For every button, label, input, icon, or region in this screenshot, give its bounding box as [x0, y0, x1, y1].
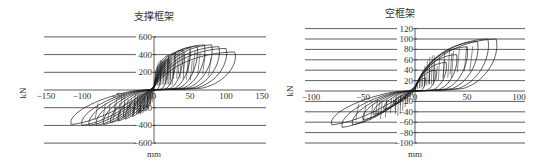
x-tick-label: 0 — [152, 91, 157, 101]
figure: 支撑框架600400200−200−400−600−150−100−500501… — [0, 0, 548, 167]
y-tick-label: −600 — [133, 138, 152, 148]
x-axis-label: mm — [408, 149, 422, 159]
y-tick-label: 80 — [404, 44, 414, 54]
x-tick-label: 150 — [255, 91, 269, 101]
chart-title: 支撑框架 — [134, 10, 174, 22]
y-tick-label: 200 — [139, 67, 153, 77]
x-tick-label: 100 — [219, 91, 233, 101]
y-axis-label: kN — [18, 87, 28, 99]
y-tick-label: 100 — [400, 34, 414, 44]
x-tick-label: −50 — [356, 92, 371, 102]
hysteresis-loops — [71, 45, 236, 126]
y-tick-label: −100 — [394, 138, 413, 148]
x-tick-label: −100 — [73, 91, 92, 101]
y-tick-label: −40 — [399, 107, 414, 117]
y-tick-label: 60 — [404, 55, 414, 65]
x-tick-label: −100 — [302, 92, 321, 102]
x-tick-label: 0 — [413, 92, 418, 102]
chart-title: 空框架 — [385, 7, 415, 19]
y-tick-label: −60 — [399, 117, 414, 127]
y-tick-label: −400 — [133, 120, 152, 130]
y-tick-label: 120 — [400, 24, 414, 34]
x-tick-label: −50 — [111, 91, 126, 101]
y-tick-label: 400 — [139, 50, 153, 60]
bare-frame-chart: 空框架12010080604020−20−40−60−80−100−100−50… — [285, 7, 526, 159]
x-axis-label: mm — [147, 149, 161, 159]
hysteresis-loops — [331, 39, 496, 127]
y-tick-label: 20 — [404, 76, 414, 86]
y-tick-label: 40 — [404, 65, 414, 75]
x-tick-label: 50 — [186, 91, 196, 101]
x-tick-label: 100 — [512, 92, 526, 102]
x-tick-label: −150 — [37, 91, 56, 101]
braced-frame-chart: 支撑框架600400200−200−400−600−150−100−500501… — [18, 10, 269, 159]
x-tick-label: 50 — [463, 92, 473, 102]
y-tick-label: 600 — [139, 32, 153, 42]
y-axis-label: kN — [285, 85, 295, 97]
y-tick-label: −80 — [399, 128, 414, 138]
